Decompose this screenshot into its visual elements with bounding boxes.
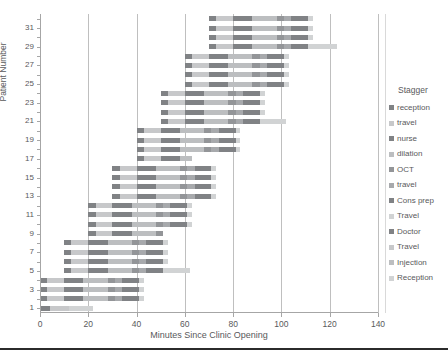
legend-item-travel-1[interactable]: travel xyxy=(389,116,447,132)
y-tick-label: 1 xyxy=(8,304,34,312)
y-tick-label: 15 xyxy=(8,174,34,182)
y-tick-label: 23 xyxy=(8,99,34,107)
x-tick-label: 140 xyxy=(358,319,398,329)
x-tick-mark xyxy=(233,313,234,317)
x-tick-label: 100 xyxy=(261,319,301,329)
legend-swatch-icon xyxy=(389,229,394,234)
y-tick-label: 31 xyxy=(8,24,34,32)
legend-item-cons-prep-6[interactable]: Cons prep xyxy=(389,193,447,209)
legend-item-label: Injection xyxy=(397,259,427,267)
x-tick-label: 0 xyxy=(20,319,60,329)
legend-items: receptiontravelnursedilationOCTtravelCon… xyxy=(389,100,447,286)
legend-item-travel-5[interactable]: travel xyxy=(389,178,447,194)
x-tick-mark xyxy=(185,313,186,317)
y-tick-label: 7 xyxy=(8,248,34,256)
y-tick-label: 3 xyxy=(8,286,34,294)
legend-swatch-icon xyxy=(389,260,394,265)
x-tick-mark xyxy=(378,313,379,317)
legend-swatch-icon xyxy=(389,198,394,203)
x-tick-mark xyxy=(330,313,331,317)
x-tick-label: 60 xyxy=(165,319,205,329)
legend-item-label: Doctor xyxy=(397,228,421,236)
legend-swatch-icon xyxy=(389,105,394,110)
legend-swatch-icon xyxy=(389,214,394,219)
legend-item-label: Cons prep xyxy=(397,197,434,205)
legend-item-label: Travel xyxy=(397,212,419,220)
x-tick-mark xyxy=(137,313,138,317)
y-axis-title: Patient Number xyxy=(0,12,8,132)
legend-swatch-icon xyxy=(389,167,394,172)
x-tick-label: 120 xyxy=(310,319,350,329)
legend-item-label: OCT xyxy=(397,166,414,174)
legend-item-nurse-2[interactable]: nurse xyxy=(389,131,447,147)
bottom-rule xyxy=(0,348,448,350)
legend-item-label: nurse xyxy=(397,135,417,143)
x-tick-mark xyxy=(88,313,89,317)
y-tick-label: 21 xyxy=(8,117,34,125)
legend-swatch-icon xyxy=(389,121,394,126)
legend: Stagger receptiontravelnursedilationOCTt… xyxy=(389,85,447,286)
legend-swatch-icon xyxy=(389,245,394,250)
x-axis-title: Minutes Since Clinic Opening xyxy=(40,330,378,340)
legend-item-label: Travel xyxy=(397,243,419,251)
chart-container: Patient Number 1357911131517192123252729… xyxy=(0,0,448,361)
legend-item-dilation-3[interactable]: dilation xyxy=(389,147,447,163)
legend-swatch-icon xyxy=(389,276,394,281)
legend-item-label: travel xyxy=(397,119,417,127)
y-tick-label: 25 xyxy=(8,80,34,88)
y-tick-label: 9 xyxy=(8,230,34,238)
y-tick-label: 11 xyxy=(8,211,34,219)
legend-title: Stagger xyxy=(398,85,447,95)
y-tick-label: 29 xyxy=(8,43,34,51)
y-tick-label: 13 xyxy=(8,192,34,200)
legend-item-label: travel xyxy=(397,181,417,189)
legend-item-reception-11[interactable]: Reception xyxy=(389,271,447,287)
plot-frame xyxy=(40,14,378,313)
x-tick-mark xyxy=(281,313,282,317)
x-tick-mark xyxy=(40,313,41,317)
y-tick-label: 27 xyxy=(8,61,34,69)
x-tick-label: 80 xyxy=(213,319,253,329)
legend-swatch-icon xyxy=(389,183,394,188)
legend-swatch-icon xyxy=(389,152,394,157)
gridline-140 xyxy=(378,14,379,313)
legend-item-travel-9[interactable]: Travel xyxy=(389,240,447,256)
legend-item-label: dilation xyxy=(397,150,422,158)
legend-item-travel-7[interactable]: Travel xyxy=(389,209,447,225)
y-tick-label: 5 xyxy=(8,267,34,275)
legend-item-injection-10[interactable]: Injection xyxy=(389,255,447,271)
legend-divider xyxy=(385,14,386,313)
y-tick-label: 19 xyxy=(8,136,34,144)
legend-item-doctor-8[interactable]: Doctor xyxy=(389,224,447,240)
x-tick-label: 20 xyxy=(68,319,108,329)
x-tick-label: 40 xyxy=(117,319,157,329)
legend-item-label: Reception xyxy=(397,274,433,282)
plot-area xyxy=(40,14,378,313)
legend-item-reception-0[interactable]: reception xyxy=(389,100,447,116)
legend-swatch-icon xyxy=(389,136,394,141)
legend-item-label: reception xyxy=(397,104,430,112)
y-tick-label: 17 xyxy=(8,155,34,163)
legend-item-oct-4[interactable]: OCT xyxy=(389,162,447,178)
